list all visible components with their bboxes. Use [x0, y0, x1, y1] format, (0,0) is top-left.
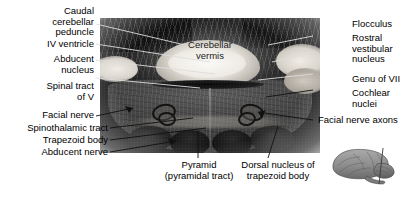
anatomy-figure: Caudal cerebellar peduncle IV ventricle … [0, 0, 411, 197]
label-dorsal-nucleus-of-trapezoid-body: Dorsal nucleus of trapezoid body [228, 160, 328, 181]
label-cochlear-nuclei: Cochlear nuclei [352, 88, 410, 109]
label-iv-ventricle: IV ventricle [2, 39, 94, 50]
label-flocculus: Flocculus [352, 19, 410, 30]
label-rostral-vestibular-nucleus: Rostral vestibular nucleus [352, 33, 410, 65]
label-genu-of-vii: Genu of VII [352, 74, 410, 85]
label-facial-nerve-axons: Facial nerve axons [318, 115, 410, 126]
label-spinal-tract-of-v: Spinal tract of V [2, 81, 94, 102]
label-abducent-nerve: Abducent nerve [2, 147, 108, 158]
label-facial-nerve: Facial nerve [2, 110, 94, 121]
label-abducent-nucleus: Abducent nucleus [2, 54, 94, 75]
label-caudal-cerebellar-peduncle: Caudal cerebellar peduncle [2, 6, 94, 38]
label-pyramid: Pyramid (pyramidal tract) [160, 160, 238, 181]
brain-lateral-inset [327, 146, 401, 188]
label-trapezoid-body: Trapezoid body [2, 135, 108, 146]
label-spinothalamic-tract: Spinothalamic tract [2, 123, 108, 134]
label-cerebellar-vermis: Cerebellar vermis [176, 40, 244, 61]
